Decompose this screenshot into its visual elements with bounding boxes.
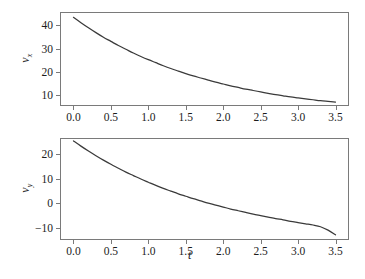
y-tick-mark [56,154,60,155]
y-tick-label: 20 [19,64,53,80]
x-tick-mark [73,240,74,244]
x-tick-mark [298,240,299,244]
line-vx [73,17,335,102]
y-tick-label: 40 [19,17,53,33]
x-tick-label: 3.0 [280,245,316,257]
figure: vx 0.00.51.01.52.02.53.03.510203040 vy t… [0,0,365,279]
y-tick-mark [56,72,60,73]
y-tick-label: 30 [19,41,53,57]
x-tick-label: 0.0 [55,111,91,123]
y-tick-mark [56,228,60,229]
x-tick-label: 3.5 [318,245,354,257]
x-tick-mark [186,106,187,110]
line-vy [73,141,335,235]
y-tick-mark [56,25,60,26]
x-tick-mark [186,240,187,244]
y-tick-mark [56,95,60,96]
y-tick-mark [56,179,60,180]
curve-area-top [60,12,349,106]
curve-area-bottom [60,138,349,240]
x-tick-label: 3.0 [280,111,316,123]
x-tick-mark [111,106,112,110]
y-tick-label: −10 [19,220,53,236]
y-axis-label-top-base: v [18,57,32,62]
x-tick-mark [111,240,112,244]
x-tick-mark [223,240,224,244]
y-tick-mark [56,49,60,50]
x-tick-label: 0.5 [93,245,129,257]
x-tick-label: 0.5 [93,111,129,123]
x-tick-mark [148,240,149,244]
y-tick-label: 10 [19,171,53,187]
y-tick-label: 20 [19,146,53,162]
x-tick-mark [336,240,337,244]
x-tick-label: 2.0 [205,111,241,123]
x-tick-label: 1.5 [168,245,204,257]
x-tick-label: 2.0 [205,245,241,257]
x-tick-mark [223,106,224,110]
x-tick-label: 1.0 [130,111,166,123]
x-tick-label: 1.5 [168,111,204,123]
x-tick-mark [148,106,149,110]
y-tick-mark [56,203,60,204]
y-tick-label: 0 [19,195,53,211]
x-tick-label: 0.0 [55,245,91,257]
x-tick-label: 3.5 [318,111,354,123]
y-axis-label-bottom-base: v [18,187,32,192]
x-tick-mark [261,106,262,110]
subplot-vx: vx 0.00.51.01.52.02.53.03.510203040 [60,12,349,106]
x-tick-mark [73,106,74,110]
x-tick-label: 2.5 [243,245,279,257]
x-tick-mark [298,106,299,110]
x-tick-label: 2.5 [243,111,279,123]
y-tick-label: 10 [19,87,53,103]
x-tick-label: 1.0 [130,245,166,257]
subplot-vy: vy t 0.00.51.01.52.02.53.03.5−1001020 [60,138,349,240]
x-tick-mark [261,240,262,244]
x-tick-mark [336,106,337,110]
